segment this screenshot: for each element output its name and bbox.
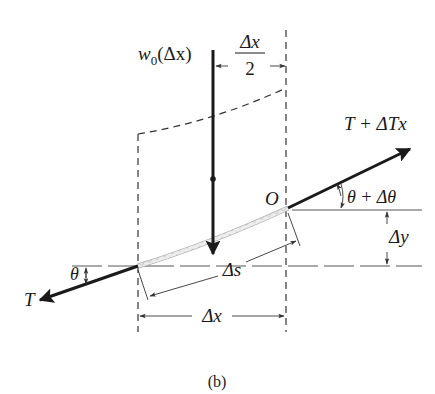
angle-right-arc xyxy=(341,184,343,208)
dy-label: Δy xyxy=(388,226,409,247)
angle-right-label: θ + Δθ xyxy=(347,187,396,207)
tension-right-label: T + ΔTx xyxy=(344,113,407,134)
origin-label: O xyxy=(265,188,279,209)
ds-label: Δs xyxy=(222,259,242,280)
figure-caption: (b) xyxy=(208,373,227,391)
half-dx-denominator: 2 xyxy=(245,58,255,79)
cable-element-diagram: w0(Δx) Δx 2 T + ΔTx θ + Δθ O Δy Δs Δx θ … xyxy=(0,0,435,394)
tension-left-label: T xyxy=(24,289,36,310)
tension-left-arrow xyxy=(40,266,138,300)
load-label: w0(Δx) xyxy=(138,43,192,68)
dx-label: Δx xyxy=(201,305,222,326)
angle-left-label: θ xyxy=(70,264,79,284)
half-dx-numerator: Δx xyxy=(239,31,260,52)
load-centroid-dot xyxy=(210,176,216,182)
